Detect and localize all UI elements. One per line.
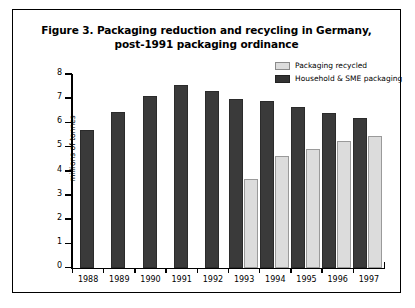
figure-container: Figure 3. Packaging reduction and recycl…	[12, 9, 401, 293]
y-axis-tick: 1	[65, 243, 72, 245]
figure-title-line-1: Figure 3. Packaging reduction and recycl…	[13, 23, 400, 37]
x-axis-tick	[259, 268, 261, 273]
bar-household-sme-packaging	[353, 118, 367, 268]
bar-packaging-recycled	[368, 136, 382, 268]
y-axis-tick-label: 0	[57, 261, 62, 270]
bar-household-sme-packaging	[322, 113, 336, 268]
x-axis-tick	[197, 268, 199, 273]
x-axis-tick	[103, 268, 105, 273]
x-axis-tick	[165, 268, 167, 273]
y-axis-tick-label: 3	[57, 189, 62, 198]
y-axis-tick: 6	[65, 122, 72, 124]
y-axis-tick-label: 1	[57, 237, 62, 246]
bar-packaging-recycled	[244, 179, 258, 267]
x-axis-tick	[134, 268, 136, 273]
bar-packaging-recycled	[275, 156, 289, 267]
y-axis-tick-label: 5	[57, 140, 62, 149]
y-axis-tick-label: 7	[57, 92, 62, 101]
bar-household-sme-packaging	[143, 96, 157, 268]
x-axis-tick	[353, 268, 355, 273]
x-axis-tick	[290, 268, 292, 273]
y-axis-tick: 2	[65, 218, 72, 220]
y-axis-tick: 8	[65, 73, 72, 75]
y-axis-tick-label: 8	[57, 68, 62, 77]
bar-household-sme-packaging	[205, 91, 219, 268]
y-axis-tick: 3	[65, 194, 72, 196]
y-axis-tick: 7	[65, 97, 72, 99]
y-axis-tick: 4	[65, 170, 72, 172]
x-axis-tick	[228, 268, 230, 273]
bar-household-sme-packaging	[291, 107, 305, 268]
bar-packaging-recycled	[306, 149, 320, 268]
x-axis-label-1997: 1997	[349, 275, 389, 284]
plot-area: millions of tonnes 012345678 19881989199…	[59, 66, 389, 278]
bar-household-sme-packaging	[80, 130, 94, 268]
x-axis-tick	[321, 268, 323, 273]
bar-packaging-recycled	[337, 141, 351, 268]
figure-title: Figure 3. Packaging reduction and recycl…	[13, 23, 400, 51]
y-axis-tick-label: 2	[57, 213, 62, 222]
x-axis-tick	[72, 268, 74, 273]
y-axis-tick-label: 6	[57, 116, 62, 125]
y-axis-tick: 5	[65, 146, 72, 148]
y-axis-tick-label: 4	[57, 165, 62, 174]
bar-household-sme-packaging	[260, 101, 274, 268]
figure-title-line-2: post-1991 packaging ordinance	[13, 37, 400, 51]
bars-layer: 1988198919901991199219931994199519961997	[73, 74, 385, 268]
bar-household-sme-packaging	[229, 99, 243, 267]
bar-household-sme-packaging	[174, 85, 188, 268]
bar-household-sme-packaging	[111, 112, 125, 268]
